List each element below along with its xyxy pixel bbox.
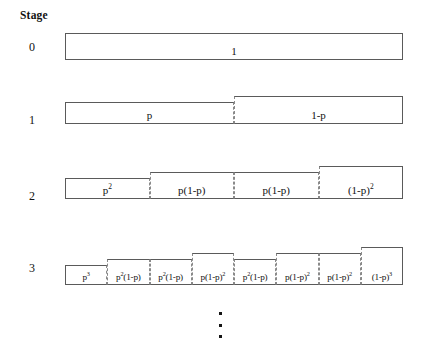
stage-3-cell-0: p3 [65,265,107,285]
stage-3-cell-5-label: p(1-p)2 [277,272,317,283]
stage-3-cell-4-label: p2(1-p) [235,272,275,283]
stage-2-cell-1: p(1-p) [150,172,235,199]
stage-1-cell-1: 1-p [234,96,403,124]
stage-2-cell-2-label: p(1-p) [235,184,318,197]
stage-3-cell-7: (1-p)3 [361,247,403,285]
vertical-ellipsis-icon [219,312,222,338]
stage-3-cell-2-label: p2(1-p) [151,272,191,283]
stage-3-cell-4: p2(1-p) [234,259,276,285]
stage-2-cell-2: p(1-p) [234,172,319,199]
stage-row-label-0: 0 [24,40,40,55]
stage-3-cell-5: p(1-p)2 [276,253,318,285]
stage-row-label-1: 1 [24,113,40,128]
stage-2-cell-3-label: (1-p)2 [320,184,403,197]
stage-1-cell-1-label: 1-p [235,109,402,122]
stage-3-cell-7-label: (1-p)3 [362,272,402,283]
stage-0-cell-0-label: 1 [66,45,402,58]
stage-3-cell-3-label: p(1-p)2 [193,272,233,283]
stage-tree-diagram: Stage 011p1-p2p2p(1-p)p(1-p)(1-p)23p3p2(… [0,0,422,354]
stage-row-label-2: 2 [24,189,40,204]
stage-2-cell-3: (1-p)2 [319,166,404,199]
stage-3-cell-2: p2(1-p) [150,259,192,285]
stage-3-cell-3: p(1-p)2 [192,253,234,285]
stage-2-cell-0: p2 [65,178,150,199]
stage-2-cell-1-label: p(1-p) [151,184,234,197]
stage-2-cell-0-label: p2 [66,184,149,197]
stage-3-cell-6: p(1-p)2 [319,253,361,285]
stage-1-cell-0: p [65,102,234,124]
stage-3-cell-1-label: p2(1-p) [108,272,148,283]
stage-3-cell-6-label: p(1-p)2 [320,272,360,283]
stage-column-title: Stage [20,9,48,21]
stage-0-cell-0: 1 [65,33,403,60]
stage-3-cell-1: p2(1-p) [107,259,149,285]
stage-1-cell-0-label: p [66,109,233,122]
stage-row-label-3: 3 [24,261,40,276]
stage-3-cell-0-label: p3 [66,272,106,283]
